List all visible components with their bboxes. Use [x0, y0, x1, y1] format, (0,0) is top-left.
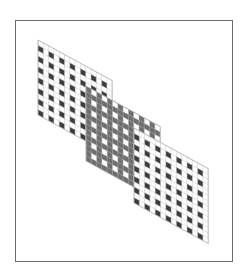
diagram-figure: [0, 0, 245, 278]
lower-right-grid: [134, 128, 208, 244]
grids-layer: [38, 40, 208, 244]
